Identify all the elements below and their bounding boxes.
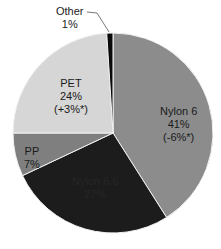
leader-line-other xyxy=(87,12,109,32)
label-pp-name: PP xyxy=(24,145,40,158)
label-pet: PET 24% (+3%*) xyxy=(54,77,88,116)
label-pet-name: PET xyxy=(54,77,88,90)
label-other-name: Other xyxy=(56,5,84,18)
label-nylon6-change: (-6%*) xyxy=(160,131,197,144)
label-other: Other 1% xyxy=(56,5,84,31)
label-nylon6-name: Nylon 6 xyxy=(160,105,197,118)
label-pet-change: (+3%*) xyxy=(54,103,88,116)
label-nylon66-pct: 27% xyxy=(72,188,118,201)
label-other-pct: 1% xyxy=(56,18,84,31)
label-pp-pct: 7% xyxy=(24,158,40,171)
label-nylon66: Nylon 6,6 27% xyxy=(72,175,118,201)
label-nylon6: Nylon 6 41% (-6%*) xyxy=(160,105,197,144)
label-pp: PP 7% xyxy=(24,145,40,171)
label-nylon66-name: Nylon 6,6 xyxy=(72,175,118,188)
label-pet-pct: 24% xyxy=(54,90,88,103)
label-nylon6-pct: 41% xyxy=(160,118,197,131)
